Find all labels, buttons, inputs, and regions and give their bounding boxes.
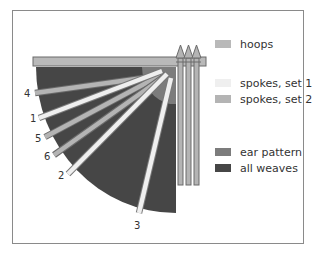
- legend-ear-pattern: ear pattern: [215, 146, 302, 158]
- legend-label: hoops: [240, 38, 273, 51]
- legend-label: ear pattern: [240, 146, 302, 159]
- spoke-label-6: 6: [44, 152, 50, 162]
- legend-label: spokes, set 2: [240, 93, 312, 106]
- legend-swatch-spokes-set-1: [215, 79, 231, 87]
- legend-label: spokes, set 1: [240, 77, 312, 90]
- spoke-label-4: 4: [24, 89, 30, 99]
- spoke-label-3: 3: [134, 221, 140, 231]
- legend-swatch-hoops: [215, 40, 231, 48]
- legend-swatch-ear-pattern: [215, 148, 231, 156]
- spoke-label-2: 2: [58, 171, 64, 181]
- spoke-label-1: 1: [30, 114, 36, 124]
- legend-label: all weaves: [240, 162, 298, 175]
- legend-swatch-all-weaves: [215, 164, 231, 172]
- spoke-label-5: 5: [35, 134, 41, 144]
- legend-hoops: hoops: [215, 38, 273, 50]
- vertical-rods: [176, 45, 201, 185]
- legend-spokes-set-1: spokes, set 1: [215, 77, 312, 89]
- legend-spokes-set-2: spokes, set 2: [215, 93, 312, 105]
- legend-swatch-spokes-set-2: [215, 95, 231, 103]
- legend-all-weaves: all weaves: [215, 162, 298, 174]
